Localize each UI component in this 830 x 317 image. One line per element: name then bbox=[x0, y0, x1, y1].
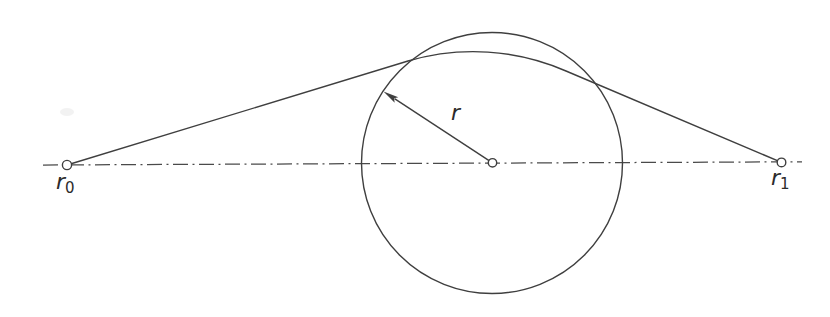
axis-centerline bbox=[43, 162, 802, 165]
label-radius-base: r bbox=[451, 100, 462, 125]
label-r0-subscript: 0 bbox=[65, 179, 75, 197]
figure-canvas: r0 r r1 bbox=[0, 0, 830, 317]
scan-smudge bbox=[60, 108, 74, 116]
label-radius: r bbox=[451, 100, 462, 125]
tangent-path bbox=[67, 52, 782, 165]
label-r1-subscript: 1 bbox=[780, 175, 790, 193]
radius-arrowhead-icon bbox=[384, 92, 399, 103]
label-r0: r0 bbox=[56, 169, 75, 197]
label-r1: r1 bbox=[771, 165, 790, 193]
geometry-figure: r0 r r1 bbox=[0, 0, 830, 317]
center-marker bbox=[488, 159, 496, 167]
radius-arrow-shaft bbox=[395, 99, 493, 163]
